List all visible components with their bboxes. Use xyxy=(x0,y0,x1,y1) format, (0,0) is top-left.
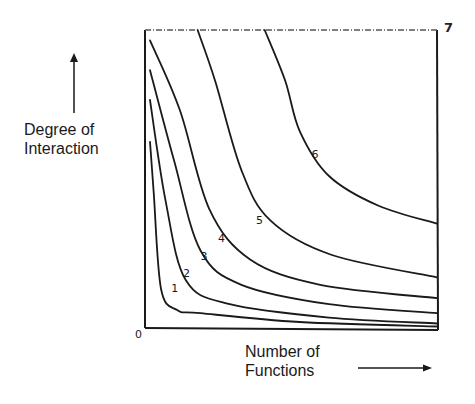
curve-4 xyxy=(150,40,437,298)
curve-3 xyxy=(150,70,437,313)
origin-label: 0 xyxy=(135,328,142,341)
y-axis-label-line-1: Degree of xyxy=(24,120,144,139)
curve-label-5: 5 xyxy=(256,214,263,227)
corner-label: 7 xyxy=(444,20,453,35)
y-axis-arrow xyxy=(70,53,78,113)
curves-group xyxy=(150,30,437,327)
x-axis-line xyxy=(145,328,438,330)
x-axis-arrow xyxy=(358,365,432,372)
y-axis-label: Degree of Interaction xyxy=(24,120,144,158)
chart-canvas: 123456 xyxy=(0,0,475,404)
x-axis-label: Number of Functions xyxy=(245,342,355,380)
right-border-line xyxy=(437,30,438,330)
curve-label-1: 1 xyxy=(171,282,178,295)
curve-labels-group: 123456 xyxy=(171,148,318,295)
curve-label-2: 2 xyxy=(183,267,190,280)
y-axis-label-line-2: Interaction xyxy=(24,139,144,158)
curve-label-4: 4 xyxy=(218,232,225,245)
curve-6 xyxy=(265,30,437,224)
curve-label-3: 3 xyxy=(201,250,208,263)
x-axis-label-line-2: Functions xyxy=(245,361,355,380)
curve-label-6: 6 xyxy=(311,148,318,161)
x-axis-label-line-1: Number of xyxy=(245,342,355,361)
